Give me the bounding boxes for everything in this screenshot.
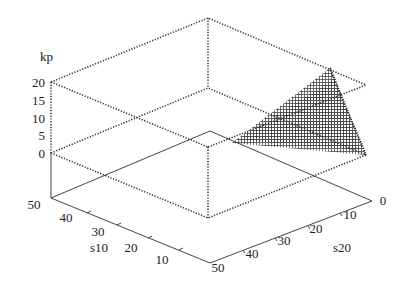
svg-text:15: 15 <box>32 93 45 108</box>
svg-text:20: 20 <box>125 240 138 255</box>
z-axis-ticks: 20 15 10 5 0 <box>32 75 45 161</box>
svg-text:0: 0 <box>380 193 387 208</box>
svg-text:10: 10 <box>344 207 357 222</box>
y-axis-label: s10 <box>90 240 108 255</box>
svg-text:0: 0 <box>39 146 46 161</box>
x-axis-label: s20 <box>333 240 351 255</box>
svg-text:40: 40 <box>246 246 259 261</box>
surface-plot: 20 15 10 5 0 50 40 30 20 10 0 10 20 30 4… <box>0 0 412 283</box>
svg-text:30: 30 <box>92 224 105 239</box>
z-axis-label: kp <box>40 49 53 64</box>
svg-text:10: 10 <box>156 252 169 267</box>
svg-text:20: 20 <box>32 75 45 90</box>
surface-data <box>232 68 366 155</box>
svg-text:5: 5 <box>39 128 46 143</box>
svg-text:40: 40 <box>60 210 73 225</box>
svg-text:20: 20 <box>310 221 323 236</box>
svg-text:50: 50 <box>212 260 225 275</box>
svg-text:50: 50 <box>28 197 41 212</box>
y-axis-ticks: 50 40 30 20 10 <box>28 197 169 267</box>
svg-text:10: 10 <box>32 111 45 126</box>
svg-text:30: 30 <box>278 233 291 248</box>
